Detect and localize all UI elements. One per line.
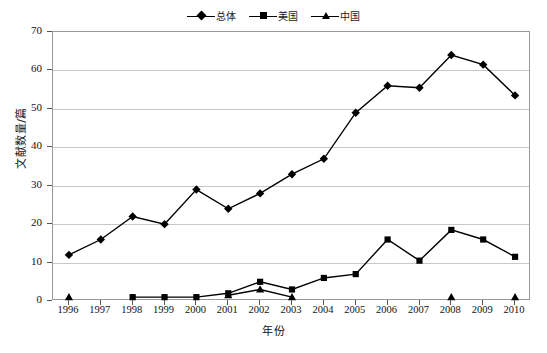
x-tick-mark-2002	[259, 300, 260, 305]
x-tick-mark-1997	[100, 300, 101, 305]
legend-swatch-diamond	[187, 11, 215, 21]
x-tick-mark-2007	[419, 300, 420, 305]
legend-label-1: 美国	[278, 10, 298, 23]
figure-caption	[0, 344, 547, 353]
y-tick-mark-30	[47, 185, 52, 186]
series-layer	[53, 32, 531, 301]
y-axis-title: 文献数量/篇	[12, 78, 28, 198]
data-point-总体-1996	[65, 251, 73, 259]
data-point-总体-2003	[288, 170, 296, 178]
y-tick-label-10: 10	[0, 255, 42, 267]
data-point-美国-2000	[193, 294, 199, 300]
plot-area	[52, 31, 530, 300]
data-point-中国-2008	[447, 293, 455, 300]
series-line-总体	[69, 55, 515, 255]
x-tick-mark-2003	[291, 300, 292, 305]
series-美国	[130, 227, 519, 300]
data-point-美国-2007	[416, 258, 422, 264]
x-tick-mark-1998	[132, 300, 133, 305]
x-tick-mark-2008	[450, 300, 451, 305]
chart-legend: 总体 美国 中国	[0, 8, 547, 23]
data-point-总体-2002	[256, 189, 264, 197]
x-tick-mark-2004	[323, 300, 324, 305]
legend-swatch-triangle	[311, 11, 339, 21]
y-tick-label-60: 60	[0, 62, 42, 74]
x-tick-mark-2001	[227, 300, 228, 305]
y-tick-mark-60	[47, 69, 52, 70]
data-point-美国-2009	[480, 236, 486, 242]
y-tick-mark-50	[47, 108, 52, 109]
x-tick-mark-2005	[355, 300, 356, 305]
y-tick-mark-40	[47, 146, 52, 147]
data-point-美国-2010	[512, 254, 518, 260]
data-point-总体-2004	[320, 155, 328, 163]
y-tick-mark-20	[47, 223, 52, 224]
legend-label-2: 中国	[340, 10, 360, 23]
x-tick-mark-2000	[195, 300, 196, 305]
y-tick-label-70: 70	[0, 24, 42, 36]
data-point-美国-1999	[161, 294, 167, 300]
legend-label-0: 总体	[216, 10, 236, 23]
x-tick-label-2010: 2010	[494, 304, 534, 315]
y-tick-mark-70	[47, 31, 52, 32]
data-point-美国-2006	[385, 236, 391, 242]
x-tick-mark-2009	[482, 300, 483, 305]
x-axis-title: 年份	[0, 322, 547, 338]
y-tick-label-20: 20	[0, 216, 42, 228]
data-point-美国-2002	[257, 279, 263, 285]
legend-item-2[interactable]: 中国	[311, 9, 360, 23]
x-tick-mark-1999	[164, 300, 165, 305]
chart-figure: 总体 美国 中国 010203040506070 199619971998199…	[0, 0, 547, 353]
data-point-总体-2001	[224, 205, 232, 213]
data-point-美国-2003	[289, 286, 295, 292]
series-line-美国	[133, 230, 515, 297]
x-tick-mark-1996	[68, 300, 69, 305]
legend-swatch-square	[249, 11, 277, 21]
data-point-中国-2002	[256, 285, 264, 292]
y-tick-label-0: 0	[0, 293, 42, 305]
data-point-美国-2008	[448, 227, 454, 233]
x-tick-mark-2010	[514, 300, 515, 305]
x-tick-mark-2006	[387, 300, 388, 305]
legend-item-0[interactable]: 总体	[187, 9, 236, 23]
y-tick-mark-0	[47, 300, 52, 301]
legend-item-1[interactable]: 美国	[249, 9, 298, 23]
data-point-美国-2004	[321, 275, 327, 281]
y-tick-mark-10	[47, 262, 52, 263]
data-point-中国-1996	[65, 293, 73, 300]
data-point-美国-2005	[353, 271, 359, 277]
